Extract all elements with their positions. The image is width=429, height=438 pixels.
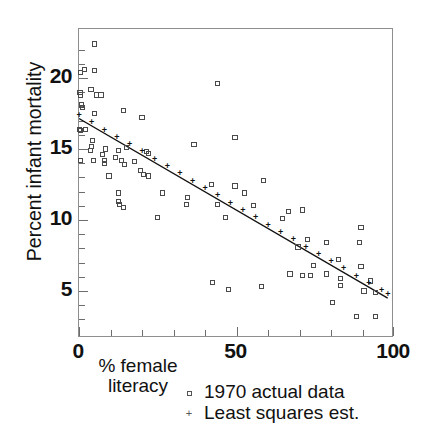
legend-entry: 1970 actual data	[178, 381, 359, 402]
data-point	[78, 92, 83, 97]
legend-label: 1970 actual data	[200, 381, 345, 403]
data-point	[226, 287, 231, 292]
fit-marker	[127, 145, 132, 150]
data-point	[113, 155, 118, 160]
y-tick-major	[79, 291, 88, 292]
fit-marker	[329, 262, 334, 267]
data-point	[139, 115, 144, 120]
y-tick-minor	[79, 163, 85, 164]
plus-marker-icon: +	[178, 407, 200, 419]
data-point	[287, 271, 292, 276]
y-tick-minor	[79, 192, 85, 193]
square-marker-icon	[178, 386, 200, 398]
fit-marker	[253, 218, 258, 223]
data-point	[92, 41, 97, 46]
data-point	[184, 202, 189, 207]
data-point	[338, 283, 343, 288]
x-tick-label: 50	[224, 339, 246, 363]
data-point	[280, 216, 285, 221]
data-point	[121, 108, 126, 113]
data-point	[83, 127, 88, 132]
data-point	[215, 202, 220, 207]
y-tick-minor	[79, 50, 85, 51]
y-tick-minor	[79, 206, 85, 207]
data-point	[185, 195, 190, 200]
fit-marker	[278, 233, 283, 238]
x-tick-major	[393, 327, 394, 336]
fit-marker	[165, 167, 170, 172]
scatter-plot-figure: Percent infant mortality 050100 5101520 …	[0, 0, 429, 438]
data-point	[121, 205, 126, 210]
fit-marker	[177, 174, 182, 179]
data-point	[155, 215, 160, 220]
data-point	[361, 288, 366, 293]
fit-marker	[77, 116, 82, 121]
data-point	[191, 142, 196, 147]
data-point	[103, 146, 108, 151]
data-point	[330, 300, 335, 305]
y-tick-minor	[79, 135, 85, 136]
data-point	[90, 138, 95, 143]
data-point	[82, 67, 87, 72]
data-point	[295, 244, 300, 249]
y-tick-label: 20	[38, 64, 72, 88]
x-tick-minor	[174, 330, 175, 336]
data-point	[146, 151, 151, 156]
x-tick-minor	[205, 330, 206, 336]
fit-marker	[102, 131, 107, 136]
y-tick-major	[79, 220, 88, 221]
y-tick-label: 5	[38, 277, 72, 301]
fit-marker	[215, 196, 220, 201]
data-point	[324, 240, 329, 245]
data-point	[209, 182, 214, 187]
data-point	[357, 240, 362, 245]
x-tick-minor	[363, 330, 364, 336]
fit-marker	[316, 255, 321, 260]
data-point	[336, 257, 341, 262]
fit-marker	[89, 123, 94, 128]
data-point	[259, 284, 264, 289]
data-point	[232, 183, 237, 188]
y-tick-minor	[79, 305, 85, 306]
y-tick-minor	[79, 319, 85, 320]
fit-marker	[291, 240, 296, 245]
fit-marker	[114, 138, 119, 143]
data-point	[308, 273, 313, 278]
data-point	[223, 215, 228, 220]
legend-label: Least squares est.	[200, 402, 359, 424]
chart-legend: 1970 actual data+Least squares est.	[178, 381, 359, 423]
data-point	[338, 276, 343, 281]
y-tick-minor	[79, 177, 85, 178]
data-point	[358, 264, 363, 269]
data-point	[286, 209, 291, 214]
x-tick-minor	[142, 330, 143, 336]
fit-marker	[303, 248, 308, 253]
data-point	[210, 280, 215, 285]
data-point	[91, 158, 96, 163]
y-tick-minor	[79, 234, 85, 235]
x-tick-major	[79, 327, 80, 336]
x-tick-label: 100	[376, 339, 410, 363]
fit-marker	[190, 182, 195, 187]
data-point	[324, 271, 329, 276]
data-point	[100, 152, 105, 157]
y-tick-minor	[79, 248, 85, 249]
data-point	[92, 68, 97, 73]
fit-marker	[240, 211, 245, 216]
y-tick-major	[79, 149, 88, 150]
data-point	[116, 148, 121, 153]
y-tick-major	[79, 78, 88, 79]
x-tick-minor	[111, 330, 112, 336]
data-point	[98, 92, 103, 97]
y-tick-minor	[79, 64, 85, 65]
data-point	[116, 190, 121, 195]
data-point	[311, 263, 316, 268]
data-point	[88, 148, 93, 153]
data-point	[132, 159, 137, 164]
data-point	[92, 111, 97, 116]
y-tick-label: 15	[38, 135, 72, 159]
fit-marker	[203, 189, 208, 194]
fit-marker	[228, 204, 233, 209]
data-point	[300, 273, 305, 278]
fit-marker	[366, 284, 371, 289]
